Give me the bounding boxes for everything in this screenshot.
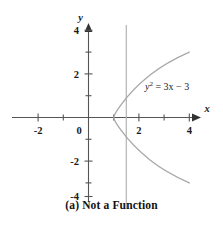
- figure-caption: (a) Not a Function: [0, 199, 223, 211]
- graph-plot: -2 2 4 0 4 2 -2 -4 x y y2 = 3x − 3: [0, 0, 223, 226]
- x-axis-arrowhead: [192, 114, 201, 122]
- x-tick-label-2: 2: [136, 125, 141, 136]
- y-tick-label-neg2: -2: [70, 156, 79, 167]
- x-axis-label: x: [203, 103, 209, 114]
- y-axis-label: y: [76, 12, 83, 23]
- y-tick-label-4: 4: [74, 25, 80, 36]
- origin-label: 0: [76, 125, 81, 136]
- equation-rhs: = 3x − 3: [153, 81, 189, 92]
- figure-not-a-function: -2 2 4 0 4 2 -2 -4 x y y2 = 3x − 3 (a) N…: [0, 0, 223, 226]
- equation-annotation: y2 = 3x − 3: [144, 80, 189, 92]
- svg-text:y2 = 3x − 3: y2 = 3x − 3: [144, 80, 189, 92]
- x-tick-label-4: 4: [187, 125, 193, 136]
- y-tick-label-2: 2: [74, 69, 79, 80]
- x-tick-label-neg2: -2: [34, 125, 43, 136]
